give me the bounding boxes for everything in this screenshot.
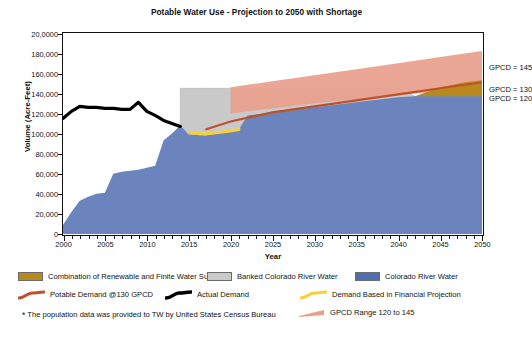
- x-tick-minor: [415, 236, 416, 239]
- y-tick-label: 0: [4, 230, 58, 239]
- plot-area: [62, 32, 484, 236]
- x-tick-label: 2015: [181, 240, 197, 249]
- x-tick-label: 2020: [223, 240, 239, 249]
- x-tick-label: 2045: [432, 240, 448, 249]
- legend-swatch-banked-colorado-river-water: [207, 272, 232, 281]
- x-tick-minor: [407, 236, 408, 239]
- x-tick-minor: [374, 236, 375, 239]
- x-tick-label: 2010: [139, 240, 155, 249]
- legend-item-combination-renewable-finite[interactable]: Combination of Renewable and Finite Wate…: [18, 272, 228, 281]
- legend-label: Banked Colorado River Water: [237, 273, 338, 281]
- x-axis-label: Year: [62, 252, 484, 261]
- x-tick-minor: [365, 236, 366, 239]
- x-tick-label: 2035: [349, 240, 365, 249]
- x-tick-minor: [214, 236, 215, 239]
- x-tick-label: 2005: [97, 240, 113, 249]
- x-tick-minor: [281, 236, 282, 239]
- x-tick-minor: [474, 236, 475, 239]
- gpcd-annotation: GPCD = 145: [489, 63, 532, 72]
- x-tick-minor: [172, 236, 173, 239]
- x-tick-minor: [181, 236, 182, 239]
- legend-row: Potable Demand @130 GPCDActual DemandDem…: [0, 290, 513, 305]
- x-tick-minor: [307, 236, 308, 239]
- x-tick-minor: [382, 236, 383, 239]
- footnote-text: The population data was provided to TW b…: [25, 310, 275, 319]
- x-tick-label: 2000: [55, 240, 71, 249]
- x-tick-minor: [298, 236, 299, 239]
- gpcd-annotation: GPCD = 120: [489, 94, 532, 103]
- legend-label: GPCD Range 120 to 145: [330, 309, 414, 317]
- legend-footnote: * The population data was provided to TW…: [22, 310, 276, 320]
- x-tick-minor: [139, 236, 140, 239]
- x-tick-minor: [457, 236, 458, 239]
- x-tick-minor: [323, 236, 324, 239]
- legend-item-colorado-river-water[interactable]: Colorado River Water: [355, 272, 458, 281]
- x-tick-minor: [256, 236, 257, 239]
- x-tick-minor: [466, 236, 467, 239]
- series-actual-demand: [63, 102, 180, 126]
- y-tick-label: 180,000: [4, 49, 58, 58]
- x-tick-label: 2050: [474, 240, 490, 249]
- x-tick-minor: [265, 236, 266, 239]
- legend-item-banked-colorado-river-water[interactable]: Banked Colorado River Water: [207, 272, 338, 281]
- x-tick-minor: [449, 236, 450, 239]
- x-tick-minor: [206, 236, 207, 239]
- x-tick-minor: [390, 236, 391, 239]
- y-tick-label: 40,000: [4, 190, 58, 199]
- legend-swatch-gpcd-range-120-145: [298, 308, 325, 318]
- y-tick-label: 20,000: [4, 210, 58, 219]
- x-tick-minor: [340, 236, 341, 239]
- x-tick-minor: [131, 236, 132, 239]
- x-tick-minor: [156, 236, 157, 239]
- x-tick-minor: [223, 236, 224, 239]
- legend-swatch-colorado-river-water: [355, 272, 380, 281]
- x-tick-minor: [89, 236, 90, 239]
- legend-label: Potable Demand @130 GPCD: [50, 291, 153, 299]
- gpcd-annotation: GPCD = 130: [489, 85, 532, 94]
- chart-legend: Combination of Renewable and Finite Wate…: [0, 268, 513, 338]
- x-tick-minor: [432, 236, 433, 239]
- series-colorado-river-water: [63, 96, 482, 234]
- x-tick-label: 2030: [307, 240, 323, 249]
- legend-label: Colorado River Water: [385, 273, 458, 281]
- legend-item-actual-demand[interactable]: Actual Demand: [165, 290, 249, 300]
- x-tick-minor: [114, 236, 115, 239]
- legend-label: Actual Demand: [197, 291, 249, 299]
- legend-swatch-actual-demand: [165, 290, 192, 300]
- x-tick-minor: [80, 236, 81, 239]
- x-tick-label: 2040: [390, 240, 406, 249]
- y-tick-label: 20,0000: [4, 29, 58, 38]
- plot-svg: [63, 33, 482, 234]
- x-tick-minor: [290, 236, 291, 239]
- chart-title: Potable Water Use - Projection to 2050 w…: [0, 7, 513, 17]
- x-tick-minor: [198, 236, 199, 239]
- x-tick-minor: [97, 236, 98, 239]
- x-tick-minor: [248, 236, 249, 239]
- x-tick-minor: [332, 236, 333, 239]
- legend-row: Combination of Renewable and Finite Wate…: [0, 272, 513, 287]
- x-tick-label: 2025: [265, 240, 281, 249]
- y-axis-label: Volume (Acre-Feet): [23, 62, 32, 172]
- legend-swatch-combination-renewable-finite: [18, 272, 43, 281]
- x-tick-minor: [239, 236, 240, 239]
- x-tick-minor: [348, 236, 349, 239]
- legend-item-potable-demand-130-gpcd[interactable]: Potable Demand @130 GPCD: [18, 290, 153, 300]
- legend-label: Demand Based in Financial Projection: [332, 291, 461, 299]
- legend-swatch-potable-demand-130-gpcd: [18, 290, 45, 300]
- x-tick-minor: [72, 236, 73, 239]
- x-tick-minor: [424, 236, 425, 239]
- legend-item-demand-financial-projection[interactable]: Demand Based in Financial Projection: [300, 290, 461, 300]
- x-tick-minor: [122, 236, 123, 239]
- legend-swatch-demand-financial-projection: [300, 290, 327, 300]
- legend-label: Combination of Renewable and Finite Wate…: [48, 273, 228, 281]
- x-tick-minor: [164, 236, 165, 239]
- legend-item-gpcd-range-120-145[interactable]: GPCD Range 120 to 145: [298, 308, 414, 318]
